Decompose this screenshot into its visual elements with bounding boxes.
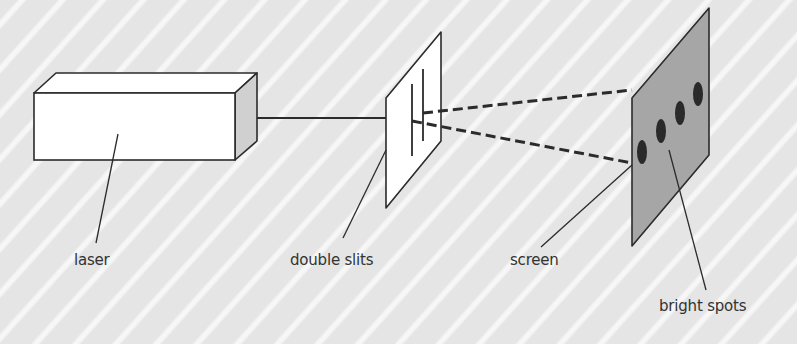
screen-plate <box>632 8 709 246</box>
double-slits-label: double slits <box>290 251 373 269</box>
diagram-canvas <box>0 0 797 344</box>
bright-spots-label: bright spots <box>659 297 746 315</box>
screen-label: screen <box>510 251 559 269</box>
slits-leader-line <box>343 150 386 238</box>
screen-leader-line <box>541 165 632 247</box>
diffracted-rays <box>412 90 632 163</box>
laser-top-face <box>34 73 257 93</box>
bright-spot-3 <box>675 101 685 125</box>
ray-lower <box>412 121 632 163</box>
bright-spot-4 <box>693 82 703 106</box>
ray-upper <box>423 90 632 113</box>
laser-box <box>34 73 257 160</box>
laser-front-face <box>34 93 235 160</box>
screen-panel <box>632 8 709 246</box>
double-slit-experiment-diagram: laser double slits screen bright spots <box>0 0 797 344</box>
bright-spot-1 <box>637 140 647 164</box>
bright-spot-2 <box>656 119 666 143</box>
laser-label: laser <box>74 251 110 269</box>
